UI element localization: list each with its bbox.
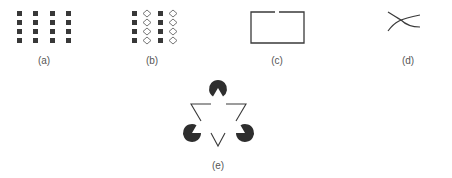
panel-b-square-diamond-grid — [132, 10, 177, 44]
panel-b-label: (b) — [146, 55, 158, 66]
panel-c-label: (c) — [271, 55, 283, 66]
panel-e-label: (e) — [212, 160, 224, 171]
panel-d-crossing-lines — [388, 12, 420, 31]
panel-c-open-rectangle — [251, 12, 304, 43]
panel-a-square-grid — [17, 11, 71, 43]
panel-e-kanizsa-triangle — [183, 80, 254, 146]
panel-d-label: (d) — [402, 55, 414, 66]
gestalt-figure — [0, 0, 452, 178]
panel-a-label: (a) — [38, 55, 50, 66]
